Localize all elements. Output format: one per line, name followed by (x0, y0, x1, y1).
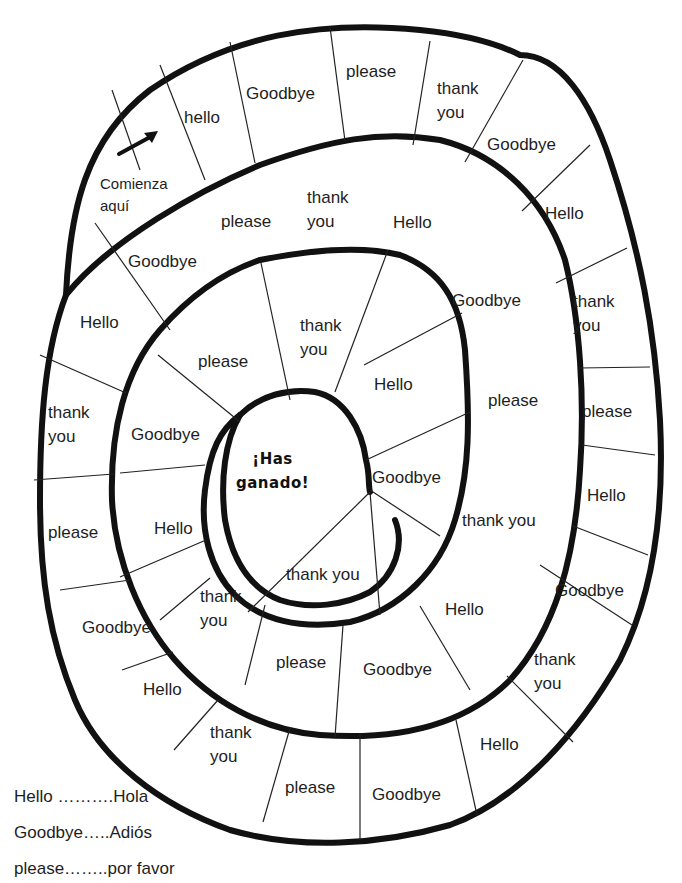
board-cell: Goodbye (372, 783, 441, 807)
start-arrow-icon (116, 128, 162, 158)
board-cell: please (198, 350, 248, 374)
board-cell: hello (184, 106, 220, 130)
board-cell: thankyou (437, 77, 479, 125)
board-cell: please (221, 210, 271, 234)
board-cell: please (285, 776, 335, 800)
board-cell: Hello (80, 311, 119, 335)
board-cell: Hello (374, 373, 413, 397)
board-cell: Goodbye (555, 579, 624, 603)
board-cell: thankyou (200, 585, 242, 633)
spiral-board (0, 0, 682, 883)
board-cell: thankyou (300, 314, 342, 362)
board-cell: Goodbye (82, 616, 151, 640)
board-cell: thank you (462, 509, 536, 533)
board-cell: Goodbye (487, 133, 556, 157)
board-cell: Goodbye (131, 423, 200, 447)
board-cell: please (276, 651, 326, 675)
board-cell: Hello (393, 211, 432, 235)
board-cell: thank you (286, 563, 360, 587)
board-cell: Goodbye (246, 82, 315, 106)
board-cell: please (48, 521, 98, 545)
legend-hello: Hello ……….Hola (14, 787, 148, 807)
board-cell: Hello (480, 733, 519, 757)
board-cell: thankyou (307, 186, 349, 234)
board-cell: thankyou (48, 401, 90, 449)
finish-label: ¡Has ganado! (236, 447, 309, 495)
board-cell: please (488, 389, 538, 413)
board-cell: Goodbye (363, 658, 432, 682)
start-label: Comienza aquí (100, 173, 168, 217)
board-cell: Hello (154, 517, 193, 541)
board-cell: thankyou (573, 290, 615, 338)
board-cell: please (346, 60, 396, 84)
board-cell: please (582, 400, 632, 424)
board-cell: Goodbye (372, 466, 441, 490)
board-cell: Goodbye (128, 250, 197, 274)
board-cell: Hello (143, 678, 182, 702)
board-cell: Hello (587, 484, 626, 508)
legend-goodbye: Goodbye…..Adiós (14, 823, 152, 843)
board-cell: Hello (445, 598, 484, 622)
board-cell: Hello (545, 202, 584, 226)
board-cell: thankyou (534, 648, 576, 696)
board-cell: Goodbye (452, 289, 521, 313)
legend-please: please……..por favor (14, 859, 175, 879)
board-cell: thankyou (210, 721, 252, 769)
